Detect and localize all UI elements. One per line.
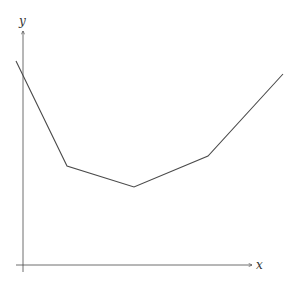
data-series-line xyxy=(16,61,283,187)
line-chart: y x xyxy=(0,0,297,284)
x-axis-label: x xyxy=(256,258,263,272)
y-axis-label: y xyxy=(18,14,26,28)
